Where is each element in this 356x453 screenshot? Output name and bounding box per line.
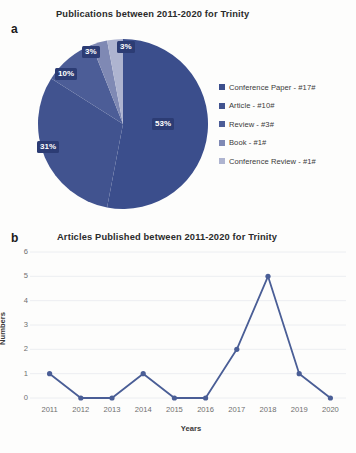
pie-data-label-review: 10% xyxy=(55,68,77,80)
pie-data-label-conference-review: 3% xyxy=(117,41,135,53)
x-axis-tick-label: 2020 xyxy=(315,406,345,414)
x-axis-tick-label: 2017 xyxy=(222,406,252,414)
legend-swatch-article xyxy=(219,103,225,109)
pie-data-label-conference-paper: 53% xyxy=(152,118,174,130)
legend-label-article: Article - #10# xyxy=(229,101,274,110)
legend-item-book: Book - #1# xyxy=(219,134,353,153)
legend-label-book: Book - #1# xyxy=(229,138,266,147)
data-point-marker xyxy=(141,371,146,376)
x-axis-tick-label: 2016 xyxy=(191,406,221,414)
line-chart: 0123456 20112012201320142015201620172018… xyxy=(0,228,356,453)
x-axis-tick-label: 2012 xyxy=(66,406,96,414)
legend-item-conference-paper: Conference Paper - #17# xyxy=(219,78,353,97)
legend-item-article: Article - #10# xyxy=(219,97,353,116)
panel-a-letter: a xyxy=(11,22,18,36)
data-point-marker xyxy=(109,395,114,400)
panel-b-articles-line: Articles Published between 2011-2020 for… xyxy=(0,228,356,453)
pie-legend: Conference Paper - #17# Article - #10# R… xyxy=(219,78,353,171)
pie-chart-title: Publications between 2011-2020 for Trini… xyxy=(56,9,249,19)
y-axis-tick-label: 4 xyxy=(2,297,28,305)
panel-a-publications-pie: a Publications between 2011-2020 for Tri… xyxy=(0,0,356,228)
data-point-marker xyxy=(234,347,239,352)
x-axis-tick-label: 2015 xyxy=(159,406,189,414)
y-axis-title: Numbers xyxy=(0,312,7,345)
y-axis-tick-label: 1 xyxy=(2,370,28,378)
line-chart-svg xyxy=(0,228,356,453)
data-point-marker xyxy=(297,371,302,376)
legend-label-review: Review - #3# xyxy=(229,120,274,129)
x-axis-tick-label: 2019 xyxy=(284,406,314,414)
legend-swatch-conference-review xyxy=(219,158,225,164)
legend-item-review: Review - #3# xyxy=(219,115,353,134)
pie-chart-svg xyxy=(37,38,209,210)
data-point-marker xyxy=(265,274,270,279)
pie-data-label-book: 3% xyxy=(82,46,100,58)
data-series-line xyxy=(50,276,331,398)
data-point-marker xyxy=(203,395,208,400)
legend-swatch-review xyxy=(219,121,225,127)
y-axis-tick-label: 5 xyxy=(2,272,28,280)
y-axis-tick-label: 2 xyxy=(2,345,28,353)
x-axis-tick-label: 2013 xyxy=(97,406,127,414)
y-axis-tick-label: 0 xyxy=(2,394,28,402)
y-axis-tick-label: 6 xyxy=(2,248,28,256)
legend-swatch-book xyxy=(219,140,225,146)
data-point-marker xyxy=(78,395,83,400)
pie-chart xyxy=(37,38,209,210)
x-axis-tick-label: 2014 xyxy=(128,406,158,414)
panel-b-letter: b xyxy=(11,231,18,245)
data-point-marker xyxy=(328,395,333,400)
x-axis-tick-label: 2018 xyxy=(253,406,283,414)
pie-data-label-article: 31% xyxy=(37,141,59,153)
x-axis-tick-label: 2011 xyxy=(35,406,65,414)
x-axis-title: Years xyxy=(0,424,356,433)
legend-swatch-conference-paper xyxy=(219,84,225,90)
legend-item-conference-review: Conference Review - #1# xyxy=(219,152,353,171)
legend-label-conference-review: Conference Review - #1# xyxy=(229,157,316,166)
legend-label-conference-paper: Conference Paper - #17# xyxy=(229,83,315,92)
data-point-marker xyxy=(172,395,177,400)
data-point-marker xyxy=(47,371,52,376)
data-point-markers xyxy=(47,274,333,401)
